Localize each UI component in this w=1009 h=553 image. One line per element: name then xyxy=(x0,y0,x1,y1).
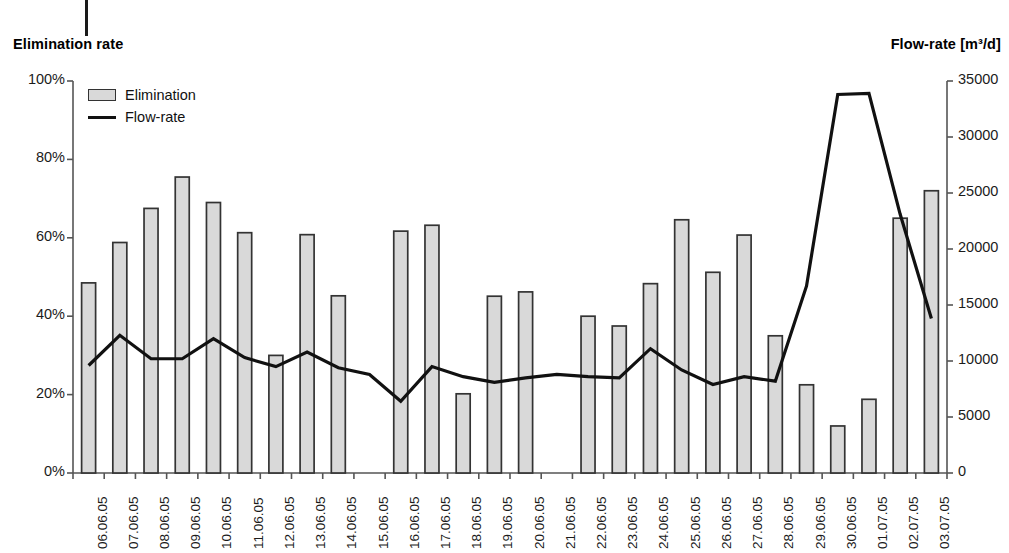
bar-24.06.05 xyxy=(643,284,657,473)
legend-item-elimination: Elimination xyxy=(88,84,196,106)
right-axis-label: 35000 xyxy=(958,71,998,87)
bar-28.06.05 xyxy=(768,336,782,473)
right-axis-label: 5000 xyxy=(958,407,990,423)
legend-item-flow-rate: Flow-rate xyxy=(88,106,196,128)
bar-02.07.05 xyxy=(893,218,907,473)
chart-plot-area xyxy=(0,0,1009,553)
x-axis-label: 16.06.05 xyxy=(407,496,422,549)
bar-22.06.05 xyxy=(581,316,595,473)
x-axis-label: 19.06.05 xyxy=(500,496,515,549)
x-axis-label: 08.06.05 xyxy=(157,496,172,549)
right-axis-label: 15000 xyxy=(958,295,998,311)
right-axis-label: 0 xyxy=(958,463,966,479)
bar-03.07.05 xyxy=(924,191,938,473)
right-axis-label: 25000 xyxy=(958,183,998,199)
x-axis-label: 17.06.05 xyxy=(438,496,453,549)
bar-18.06.05 xyxy=(456,394,470,473)
x-axis-label: 25.06.05 xyxy=(688,496,703,549)
bar-01.07.05 xyxy=(862,399,876,473)
x-axis-label: 18.06.05 xyxy=(469,496,484,549)
x-axis-label: 10.06.05 xyxy=(219,496,234,549)
x-axis-label: 01.07.05 xyxy=(875,496,890,549)
x-axis-label: 21.06.05 xyxy=(563,496,578,549)
left-axis-label: 20% xyxy=(5,385,65,401)
legend-label: Flow-rate xyxy=(125,109,185,125)
x-axis-label: 28.06.05 xyxy=(781,496,796,549)
bar-07.06.05 xyxy=(113,243,127,473)
bar-12.06.05 xyxy=(269,355,283,473)
bar-06.06.05 xyxy=(82,283,96,473)
right-axis-label: 30000 xyxy=(958,127,998,143)
x-axis-label: 30.06.05 xyxy=(844,496,859,549)
bar-09.06.05 xyxy=(175,177,189,473)
bar-23.06.05 xyxy=(612,326,626,473)
bar-14.06.05 xyxy=(331,296,345,473)
legend-label: Elimination xyxy=(125,87,196,103)
x-axis-label: 03.07.05 xyxy=(937,496,952,549)
x-axis-label: 27.06.05 xyxy=(750,496,765,549)
bar-17.06.05 xyxy=(425,225,439,473)
x-axis-label: 13.06.05 xyxy=(313,496,328,549)
chart-legend: EliminationFlow-rate xyxy=(88,84,196,128)
left-axis-label: 80% xyxy=(5,149,65,165)
x-axis-label: 14.06.05 xyxy=(344,496,359,549)
bar-19.06.05 xyxy=(487,296,501,473)
x-axis-label: 06.06.05 xyxy=(95,496,110,549)
x-axis-label: 15.06.05 xyxy=(376,496,391,549)
chart-root: Elimination rate Flow-rate [m³/d] 100%80… xyxy=(0,0,1009,553)
bar-20.06.05 xyxy=(519,292,533,473)
bar-16.06.05 xyxy=(394,231,408,473)
x-axis-label: 11.06.05 xyxy=(251,497,266,549)
bar-29.06.05 xyxy=(800,385,814,473)
x-axis-label: 12.06.05 xyxy=(282,496,297,549)
x-axis-label: 29.06.05 xyxy=(813,496,828,549)
legend-bar-swatch-icon xyxy=(88,89,116,101)
right-axis-label: 20000 xyxy=(958,239,998,255)
x-axis-label: 07.06.05 xyxy=(126,496,141,549)
left-axis-label: 40% xyxy=(5,306,65,322)
right-axis-label: 10000 xyxy=(958,351,998,367)
legend-line-swatch-icon xyxy=(88,116,116,119)
x-axis-label: 02.07.05 xyxy=(906,496,921,549)
x-axis-label: 26.06.05 xyxy=(719,496,734,549)
left-axis-label: 0% xyxy=(5,463,65,479)
bar-08.06.05 xyxy=(144,208,158,473)
bar-26.06.05 xyxy=(706,272,720,473)
x-axis-label: 23.06.05 xyxy=(625,496,640,549)
left-axis-label: 100% xyxy=(5,71,65,87)
x-axis-label: 24.06.05 xyxy=(656,496,671,549)
x-axis-label: 22.06.05 xyxy=(594,496,609,549)
x-axis-label: 20.06.05 xyxy=(532,496,547,549)
x-axis-label: 09.06.05 xyxy=(188,496,203,549)
bar-27.06.05 xyxy=(737,235,751,473)
bar-30.06.05 xyxy=(831,426,845,473)
left-axis-label: 60% xyxy=(5,228,65,244)
bar-25.06.05 xyxy=(675,220,689,473)
